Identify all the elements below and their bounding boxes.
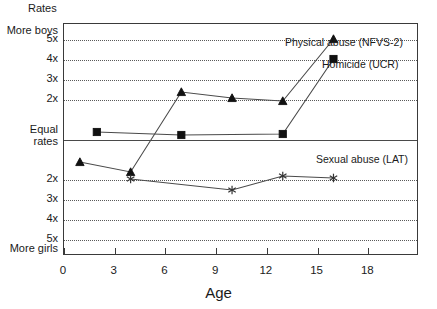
y-tick-label: 4x — [0, 212, 58, 224]
x-tick-label: 9 — [201, 264, 229, 276]
y-tick-label: Equal — [0, 123, 58, 135]
x-tick — [368, 248, 369, 254]
y-tick-label: 3x — [0, 192, 58, 204]
gridline — [64, 240, 417, 241]
y-tick-label: 2x — [0, 92, 58, 104]
gridline — [64, 200, 417, 201]
gridline — [64, 80, 417, 81]
x-tick — [64, 248, 65, 254]
gridline — [64, 100, 417, 101]
x-tick-label: 12 — [252, 264, 280, 276]
y-tick-label: More girls — [0, 242, 58, 254]
equal-rates-line — [64, 140, 417, 141]
series-label: Sexual abuse (LAT) — [316, 153, 408, 165]
x-tick — [165, 248, 166, 254]
y-tick-label: 4x — [0, 52, 58, 64]
series-label: Homicide (UCR) — [322, 58, 398, 70]
x-tick-label: 0 — [49, 264, 77, 276]
x-tick — [115, 248, 116, 254]
gridline — [64, 220, 417, 221]
x-tick-label: 6 — [150, 264, 178, 276]
x-tick — [216, 248, 217, 254]
y-tick-label: 2x — [0, 172, 58, 184]
x-axis-title: Age — [0, 284, 437, 301]
x-tick-label: 3 — [100, 264, 128, 276]
x-tick — [267, 248, 268, 254]
y-tick-label: 5x — [0, 32, 58, 44]
x-tick — [318, 248, 319, 254]
y-axis-title: Rates — [28, 2, 57, 14]
x-tick-label: 18 — [353, 264, 381, 276]
series-label: Physical abuse (NFVS-2) — [285, 36, 403, 48]
x-tick-label: 15 — [303, 264, 331, 276]
gridline — [64, 180, 417, 181]
y-tick-label: 3x — [0, 72, 58, 84]
chart-container: Rates More boys5x4x3x2xEqualrates2x3x4x5… — [0, 0, 437, 309]
y-tick-label: rates — [0, 135, 58, 147]
